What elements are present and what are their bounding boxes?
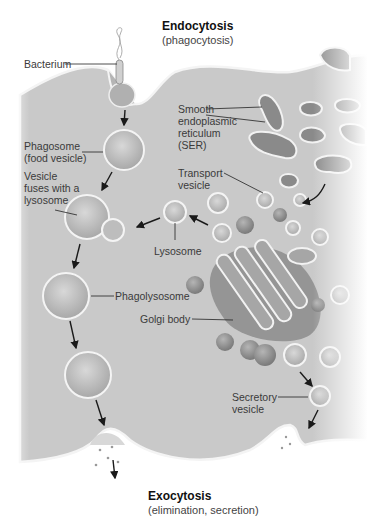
label-phagolysosome: Phagolysosome: [115, 290, 190, 302]
label-transport-vesicle: Transport vesicle: [178, 167, 223, 191]
endocytosis-subtitle: (phagocytosis): [162, 34, 234, 46]
label-lysosome: Lysosome: [154, 245, 201, 257]
label-golgi-body: Golgi body: [140, 313, 190, 325]
label-vesicle-fuses: Vesicle fuses with a lysosome: [24, 170, 79, 206]
cell-illustration: [0, 0, 368, 527]
endocytosis-title: Endocytosis: [162, 19, 233, 33]
label-smooth-er: Smooth endoplasmic reticulum (SER): [178, 103, 237, 151]
label-bacterium: Bacterium: [24, 58, 71, 70]
endocytosis-exocytosis-diagram: Endocytosis (phagocytosis) Bacterium Pha…: [0, 0, 368, 527]
exocytosis-title: Exocytosis: [148, 489, 211, 503]
label-phagosome: Phagosome (food vesicle): [24, 140, 86, 164]
label-secretory-vesicle: Secretory vesicle: [232, 391, 277, 415]
exocytosis-subtitle: (elimination, secretion): [148, 504, 259, 516]
